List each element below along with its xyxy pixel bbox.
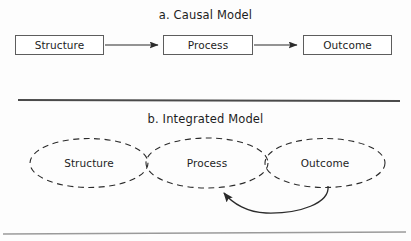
panel-b-title: b. Integrated Model	[0, 112, 411, 126]
ellipse-process-label: Process	[146, 157, 268, 169]
divider-top	[18, 100, 400, 101]
figure-container: a. Causal Model Structure Process Outcom…	[0, 0, 411, 241]
arrow-outcome-to-process-feedback	[224, 186, 328, 213]
node-box-structure: Structure	[15, 35, 104, 55]
panel-a-title: a. Causal Model	[0, 8, 411, 22]
node-box-structure-label: Structure	[35, 39, 85, 51]
divider-bottom	[3, 232, 406, 234]
node-box-process-label: Process	[188, 39, 229, 51]
node-box-outcome: Outcome	[303, 35, 392, 55]
ellipse-outcome-label: Outcome	[265, 157, 385, 169]
ellipse-structure-label: Structure	[30, 157, 148, 169]
node-box-process: Process	[163, 35, 253, 55]
node-box-outcome-label: Outcome	[323, 39, 372, 51]
